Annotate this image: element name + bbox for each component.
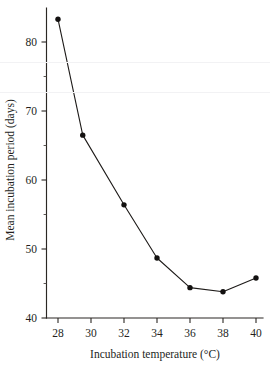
data-point [121, 202, 126, 207]
y-axis-major-ticks [42, 42, 47, 318]
x-tick-label-40: 40 [250, 327, 262, 339]
y-tick-label-50: 50 [26, 243, 38, 255]
data-point [220, 289, 225, 294]
y-tick-label-80: 80 [26, 36, 38, 48]
data-point [154, 255, 159, 260]
x-axis-title: Incubation temperature (°C) [90, 348, 220, 361]
x-tick-label-38: 38 [217, 327, 229, 339]
x-tick-label-32: 32 [118, 327, 130, 339]
line-chart: 80 70 60 50 40 28 30 32 34 36 38 40 Incu… [0, 0, 270, 369]
y-axis-title: Mean incubation period (days) [4, 99, 17, 241]
x-tick-label-30: 30 [85, 327, 97, 339]
x-tick-label-34: 34 [151, 327, 163, 339]
data-point [187, 285, 192, 290]
chart-figure: 80 70 60 50 40 28 30 32 34 36 38 40 Incu… [0, 0, 270, 369]
series-markers-incubation [55, 17, 258, 295]
x-tick-label-28: 28 [52, 327, 64, 339]
series-line-incubation [58, 19, 256, 292]
data-point [80, 132, 85, 137]
data-point [55, 17, 60, 22]
y-tick-label-40: 40 [26, 312, 38, 324]
data-point [253, 275, 258, 280]
y-tick-label-70: 70 [26, 105, 38, 117]
x-axis-ticks [58, 318, 256, 323]
x-tick-label-36: 36 [184, 327, 196, 339]
y-tick-label-60: 60 [26, 174, 38, 186]
